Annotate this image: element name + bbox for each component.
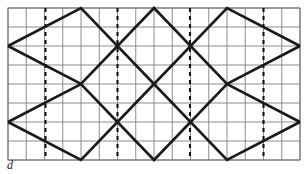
figure-svg <box>0 0 308 174</box>
figure-container: d <box>0 0 308 174</box>
figure-caption-label: d <box>7 158 13 172</box>
